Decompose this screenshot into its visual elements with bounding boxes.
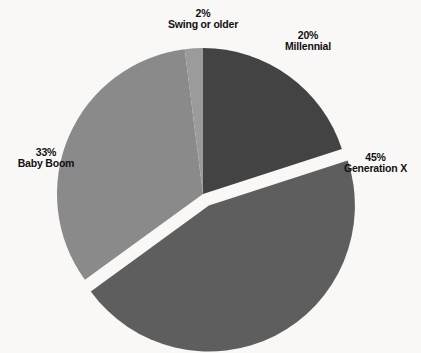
slice-label-baby-boom: 33% Baby Boom bbox=[0, 147, 92, 170]
slice-label-swing-or-older: 2% Swing or older bbox=[138, 8, 268, 31]
pie-chart: 2% Swing or older 20% Millennial 45% Gen… bbox=[0, 0, 421, 353]
pie-chart-canvas bbox=[0, 0, 421, 353]
pie-slices bbox=[57, 48, 355, 352]
slice-label-millennial: 20% Millennial bbox=[248, 30, 368, 53]
slice-name: Millennial bbox=[248, 41, 368, 52]
slice-label-generation-x: 45% Generation X bbox=[330, 152, 421, 175]
slice-name: Baby Boom bbox=[0, 158, 92, 169]
slice-name: Swing or older bbox=[138, 19, 268, 30]
slice-name: Generation X bbox=[330, 163, 421, 174]
